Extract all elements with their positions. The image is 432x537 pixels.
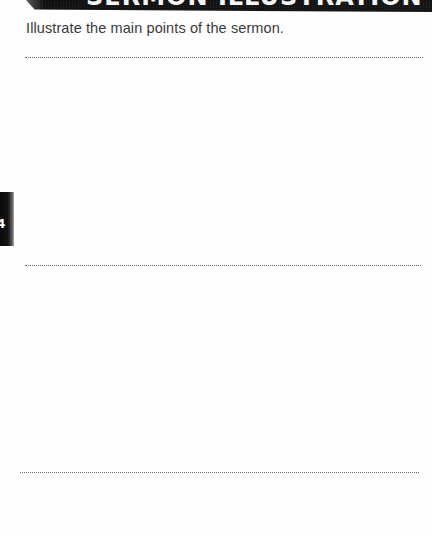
- writing-area-1[interactable]: [20, 60, 423, 262]
- dotted-divider-2: [25, 265, 421, 266]
- banner-title: SERMON ILLUSTRATION: [86, 0, 423, 9]
- worksheet-page: SERMON ILLUSTRATION Illustrate the main …: [0, 0, 432, 537]
- section-banner: SERMON ILLUSTRATION: [0, 0, 432, 12]
- writing-area-2[interactable]: [20, 268, 423, 469]
- dotted-divider-1: [25, 57, 423, 58]
- dotted-divider-3: [20, 472, 419, 473]
- chapter-number-mark: 4: [0, 218, 5, 230]
- chapter-side-tab: 4: [0, 192, 14, 246]
- instruction-text: Illustrate the main points of the sermon…: [26, 19, 284, 37]
- writing-area-3[interactable]: [20, 475, 423, 535]
